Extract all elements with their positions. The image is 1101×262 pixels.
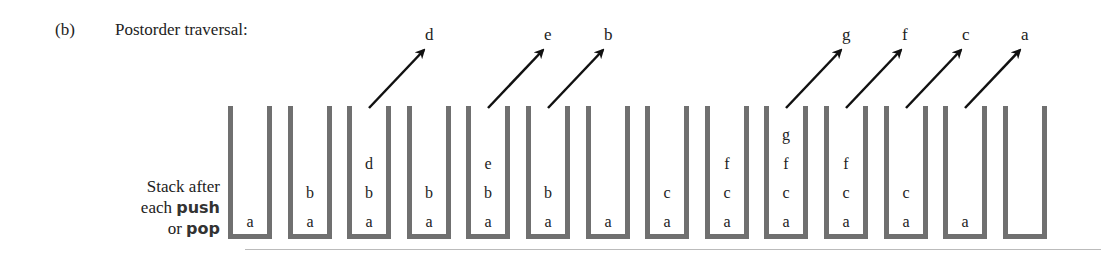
pop-arrow bbox=[488, 50, 543, 108]
popped-node-label: g bbox=[842, 25, 851, 45]
pop-arrow bbox=[846, 50, 901, 108]
popped-node-label: c bbox=[962, 25, 970, 45]
pop-arrow bbox=[906, 50, 961, 108]
popped-node-label: a bbox=[1021, 25, 1029, 45]
pop-arrow bbox=[369, 50, 424, 108]
pop-arrow bbox=[786, 50, 841, 108]
popped-node-label: d bbox=[425, 25, 434, 45]
pop-arrow bbox=[548, 50, 603, 108]
popped-node-label: f bbox=[902, 25, 908, 45]
baseline-rule bbox=[245, 249, 1101, 250]
popped-node-label: b bbox=[604, 25, 613, 45]
pop-arrow bbox=[965, 50, 1020, 108]
popped-node-label: e bbox=[544, 25, 552, 45]
